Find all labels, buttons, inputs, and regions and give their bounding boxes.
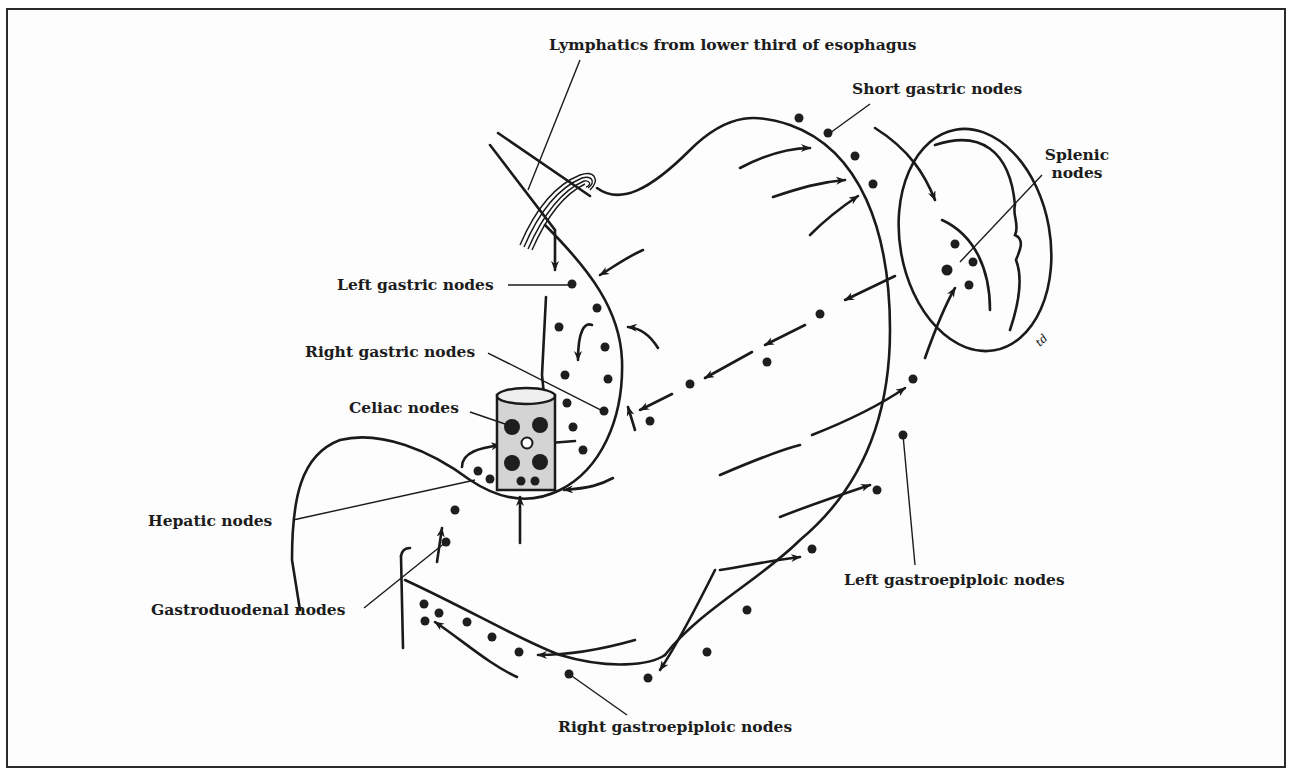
- stomach-outline: [292, 118, 890, 665]
- stomach-lymphatics-diagram: td: [0, 0, 1291, 775]
- spleen: td: [882, 117, 1069, 364]
- label-right-gastroepiploic-nodes: Right gastroepiploic nodes: [558, 718, 792, 736]
- celiac-cylinder: [497, 388, 555, 490]
- label-right-gastric-nodes: Right gastric nodes: [305, 343, 475, 361]
- label-gastroduodenal-nodes: Gastroduodenal nodes: [151, 601, 345, 619]
- label-left-gastric-nodes: Left gastric nodes: [337, 276, 494, 294]
- label-splenic-line1: Splenic: [1042, 146, 1112, 164]
- label-short-gastric-nodes: Short gastric nodes: [852, 80, 1022, 98]
- lymph-nodes: [420, 114, 918, 683]
- esophagus-bundle: [490, 60, 595, 270]
- label-splenic-nodes: Splenic nodes: [1042, 146, 1112, 182]
- artist-signature: td: [1033, 332, 1050, 349]
- label-esophagus-lymphatics: Lymphatics from lower third of esophagus: [549, 36, 917, 54]
- label-hepatic-nodes: Hepatic nodes: [148, 512, 272, 530]
- label-celiac-nodes: Celiac nodes: [349, 399, 459, 417]
- label-left-gastroepiploic-nodes: Left gastroepiploic nodes: [844, 571, 1065, 589]
- label-splenic-line2: nodes: [1042, 164, 1112, 182]
